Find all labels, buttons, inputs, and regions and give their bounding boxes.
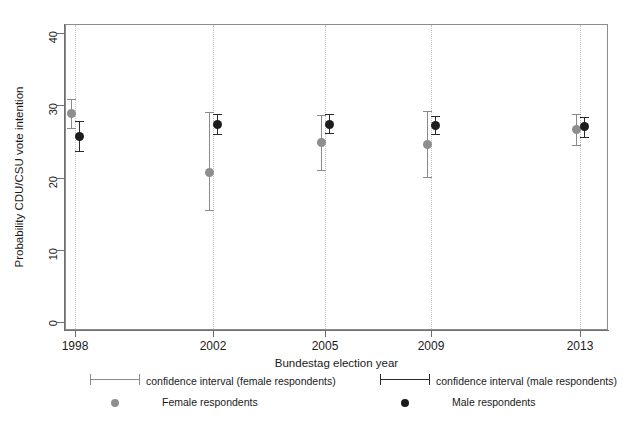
- confidence-interval-cap: [572, 114, 581, 115]
- confidence-interval-cap: [67, 99, 76, 100]
- chart-canvas: Probability CDU/CSU vote intention 01020…: [0, 0, 625, 442]
- confidence-interval-female: [209, 112, 210, 210]
- data-point-female: [67, 109, 76, 118]
- confidence-interval-cap: [317, 115, 326, 116]
- confidence-interval-cap: [75, 151, 84, 152]
- confidence-interval-cap: [580, 137, 589, 138]
- female-point-symbol: [111, 399, 119, 407]
- ci-female-label: confidence interval (female respondents): [146, 375, 336, 387]
- confidence-interval-cap: [317, 170, 326, 171]
- ci-female-symbol: [90, 374, 140, 385]
- confidence-interval-cap: [67, 128, 76, 129]
- data-point-female: [205, 168, 214, 177]
- ci-male-symbol: [380, 374, 430, 385]
- confidence-interval-cap: [431, 116, 440, 117]
- confidence-interval-cap: [423, 111, 432, 112]
- legend-row-confidence-intervals: confidence interval (female respondents)…: [0, 374, 625, 395]
- confidence-interval-cap: [325, 114, 334, 115]
- data-point-female: [317, 138, 326, 147]
- confidence-interval-cap: [75, 121, 84, 122]
- data-point-male: [580, 122, 589, 131]
- confidence-interval-cap: [325, 133, 334, 134]
- confidence-interval-cap: [205, 210, 214, 211]
- data-point-male: [431, 121, 440, 130]
- male-point-label: Male respondents: [452, 396, 535, 408]
- ci-male-label: confidence interval (male respondents): [436, 375, 617, 387]
- confidence-interval-cap: [213, 134, 222, 135]
- data-point-female: [423, 140, 432, 149]
- male-point-symbol: [401, 399, 409, 407]
- confidence-interval-cap: [431, 134, 440, 135]
- data-point-male: [75, 132, 84, 141]
- chart-legend: confidence interval (female respondents)…: [0, 374, 625, 416]
- confidence-interval-cap: [423, 177, 432, 178]
- x-axis-title: Bundestag election year: [65, 357, 608, 369]
- legend-row-points: Female respondents Male respondents: [0, 395, 625, 416]
- confidence-interval-cap: [580, 117, 589, 118]
- data-point-male: [213, 120, 222, 129]
- confidence-interval-cap: [213, 114, 222, 115]
- female-point-label: Female respondents: [162, 396, 258, 408]
- data-point-male: [325, 120, 334, 129]
- confidence-interval-cap: [572, 145, 581, 146]
